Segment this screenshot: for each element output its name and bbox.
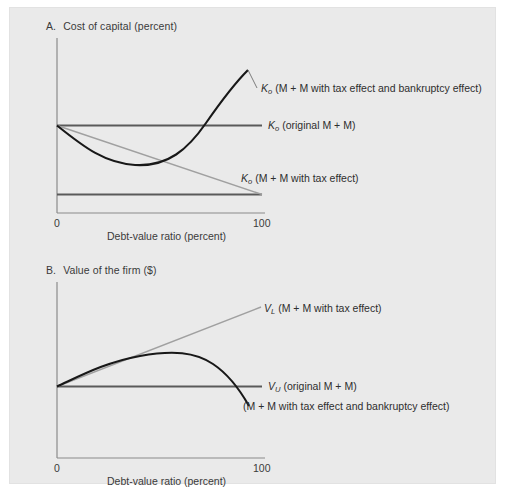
panel-b-footnote: (M + M with tax effect and bankruptcy ef… [243, 400, 450, 412]
panel-b-bankruptcy-curve [57, 353, 249, 406]
panel-b-x-tick-0: 0 [54, 462, 60, 474]
panel-b-x-axis-label: Debt-value ratio (percent) [107, 475, 226, 487]
panel-b-label-vu-original: VU (original M + M) [268, 380, 357, 392]
panel-b-x-tick-100: 100 [253, 462, 271, 474]
panel-b: B.Value of the firm ($) VL (M + M with t… [10, 8, 495, 483]
panel-b-plot [10, 8, 497, 485]
panel-b-label-vl-tax: VL (M + M with tax effect) [264, 302, 382, 314]
panel-b-vl-tax-line [57, 307, 261, 387]
panel-b-label-vu-original-symbol: V [268, 380, 275, 392]
panel-b-label-vu-original-sub: U [275, 385, 280, 394]
panel-b-label-vu-original-text: (original M + M) [283, 380, 356, 392]
panel-b-label-vl-tax-text: (M + M with tax effect) [278, 302, 381, 314]
panel-b-label-vl-tax-symbol: V [264, 302, 271, 314]
figure-container: A.Cost of capital (percent) Ko (M + M wi… [9, 7, 496, 484]
panel-b-label-vl-tax-sub: L [271, 307, 275, 316]
